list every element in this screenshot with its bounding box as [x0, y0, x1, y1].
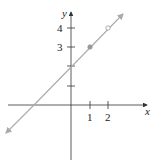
open-point-2-4 — [106, 26, 110, 30]
x-tick-label-2: 2 — [105, 111, 111, 123]
y-axis-label: y — [61, 7, 67, 19]
y-tick-label-4: 4 — [57, 22, 63, 34]
x-tick-label-1: 1 — [87, 111, 93, 123]
y-tick-label-3: 3 — [57, 41, 63, 53]
filled-point-1-3 — [88, 45, 92, 49]
line-y-equals-x-plus-2-tail — [6, 105, 34, 133]
graph: x y 1 2 3 4 — [0, 0, 155, 168]
x-axis-label: x — [144, 105, 150, 117]
